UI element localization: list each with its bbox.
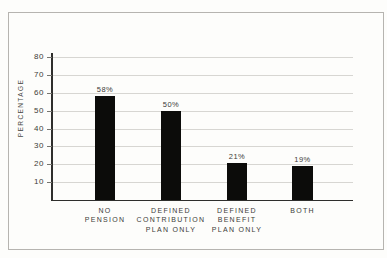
y-axis-tick-label: 70 [20,70,44,80]
y-axis-tick [47,57,52,58]
bar-value-label: 21% [217,152,257,161]
y-axis-tick-label: 50 [20,106,44,116]
y-axis-tick-label: 30 [20,141,44,151]
figure-page: PERCENTAGE 1020304050607080 58%50%21%19%… [0,0,387,258]
y-axis-tick-label: 10 [20,177,44,187]
y-axis-tick [47,129,52,130]
gridline [53,75,353,76]
y-axis-tick [47,182,52,183]
gridline [53,57,353,58]
y-axis-tick [47,93,52,94]
y-axis-tick-label: 80 [20,52,44,62]
bar [95,96,116,200]
y-axis-tick [47,164,52,165]
y-axis-tick [47,111,52,112]
bar-value-label: 50% [151,100,191,109]
y-axis-tick [47,146,52,147]
bar [227,163,248,201]
y-axis-tick-label: 20 [20,159,44,169]
y-axis-tick [47,75,52,76]
bar-value-label: 58% [85,85,125,94]
bar-value-label: 19% [283,155,323,164]
y-axis-tick-label: 60 [20,88,44,98]
bar [292,166,313,200]
y-axis-tick-label: 40 [20,124,44,134]
bar [161,111,182,200]
x-axis-category-label: BOTH [263,206,343,216]
bar-chart: PERCENTAGE 1020304050607080 58%50%21%19%… [0,0,387,258]
